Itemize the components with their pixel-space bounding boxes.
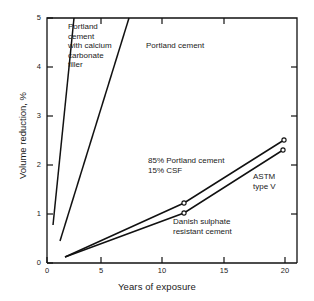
data-point-marker bbox=[182, 211, 186, 215]
y-tick-label-2: 2 bbox=[31, 161, 41, 169]
x-tick-label-0: 0 bbox=[39, 267, 55, 275]
x-tick-label-10: 10 bbox=[154, 267, 170, 275]
x-tick-label-5: 5 bbox=[93, 267, 109, 275]
x-axis-ticks bbox=[47, 257, 285, 263]
annotation-astm-type-v: ASTM type V bbox=[253, 172, 276, 191]
data-point-marker bbox=[282, 138, 286, 142]
y-tick-label-3: 3 bbox=[31, 112, 41, 120]
data-point-marker bbox=[182, 201, 186, 205]
top-axis-ticks bbox=[101, 18, 224, 24]
y-tick-label-4: 4 bbox=[31, 63, 41, 71]
data-point-marker bbox=[281, 148, 285, 152]
y-tick-label-0: 0 bbox=[31, 259, 41, 267]
x-tick-label-20: 20 bbox=[277, 267, 293, 275]
x-axis-title: Years of exposure bbox=[0, 281, 314, 292]
y-axis-ticks bbox=[47, 18, 53, 263]
series-label-portland-cement: Portland cement bbox=[146, 41, 204, 51]
series-label-85pc-15csf: 85% Portland cement 15% CSF bbox=[148, 156, 225, 175]
right-axis-ticks bbox=[291, 67, 297, 214]
y-tick-label-1: 1 bbox=[31, 210, 41, 218]
series-label-danish-sulphate: Danish sulphate resistant cement bbox=[173, 217, 232, 236]
series-label-portland-cement-filler: Portland cement with calcium carbonate f… bbox=[68, 22, 112, 70]
y-tick-label-5: 5 bbox=[31, 14, 41, 22]
chart-figure: 0 1 2 3 4 5 0 5 10 15 20 Years of exposu… bbox=[0, 0, 314, 301]
y-axis-title: Volume reduction, % bbox=[17, 56, 28, 216]
x-tick-label-15: 15 bbox=[216, 267, 232, 275]
